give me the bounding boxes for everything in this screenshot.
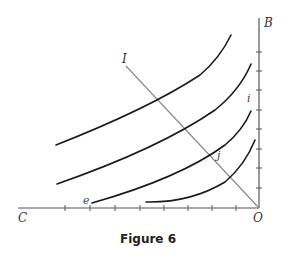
curve-4 <box>146 140 255 202</box>
label-B: B <box>263 16 273 30</box>
label-C: C <box>18 211 27 225</box>
line-IO <box>126 66 259 208</box>
indifference-curve-diagram: B C O I i j e <box>0 0 282 256</box>
curve-3 <box>92 111 251 203</box>
label-i: i <box>247 92 251 105</box>
label-e: e <box>83 194 90 207</box>
label-O: O <box>253 211 263 225</box>
curve-1 <box>56 35 231 145</box>
label-I: I <box>121 52 127 66</box>
curve-2 <box>57 64 251 184</box>
figure-caption: Figure 6 <box>0 232 282 246</box>
